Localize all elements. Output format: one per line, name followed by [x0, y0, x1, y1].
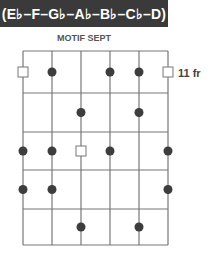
root-note-square	[76, 146, 86, 156]
note-dot	[19, 147, 28, 156]
note-dot	[135, 68, 144, 77]
note-dot	[48, 147, 57, 156]
note-dot	[106, 147, 115, 156]
note-dot	[48, 68, 57, 77]
note-dot	[48, 185, 57, 194]
note-dot	[135, 108, 144, 117]
note-dot	[77, 223, 86, 232]
note-dot	[19, 185, 28, 194]
fret-position-label: 11 fr	[178, 67, 201, 79]
note-dot	[164, 185, 173, 194]
note-dot	[135, 223, 144, 232]
note-dot	[77, 108, 86, 117]
note-dot	[164, 147, 173, 156]
fretboard-diagram	[0, 0, 208, 271]
root-note-square	[18, 67, 28, 77]
root-note-square	[163, 67, 173, 77]
note-dot	[106, 68, 115, 77]
